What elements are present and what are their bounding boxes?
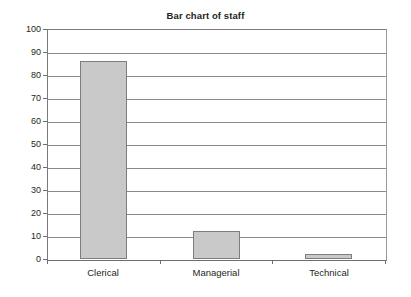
y-axis-label: 60 <box>31 117 41 126</box>
gridline <box>48 122 386 123</box>
y-axis-label: 100 <box>26 25 41 34</box>
gridline <box>48 76 386 77</box>
y-axis-label: 20 <box>31 209 41 218</box>
y-axis-label: 50 <box>31 140 41 149</box>
gridline <box>48 191 386 192</box>
plot-area <box>47 29 387 261</box>
x-axis-tick <box>272 260 273 264</box>
gridline <box>48 53 386 54</box>
gridlines <box>48 30 386 260</box>
gridline <box>48 214 386 215</box>
x-axis-tick <box>47 260 48 264</box>
y-axis-label: 40 <box>31 163 41 172</box>
y-axis-label: 70 <box>31 94 41 103</box>
gridline <box>48 237 386 238</box>
y-axis-label: 30 <box>31 186 41 195</box>
y-axis-label: 90 <box>31 48 41 57</box>
x-axis-tick <box>160 260 161 264</box>
bar-chart: Bar chart of staff 010203040506070809010… <box>0 0 411 297</box>
x-axis-label-technical: Technical <box>309 267 349 278</box>
x-axis-label-managerial: Managerial <box>193 267 240 278</box>
x-axis-label-clerical: Clerical <box>87 267 119 278</box>
y-axis-label: 0 <box>36 255 41 264</box>
gridline <box>48 168 386 169</box>
y-axis-label: 10 <box>31 232 41 241</box>
y-axis-label: 80 <box>31 71 41 80</box>
gridline <box>48 145 386 146</box>
gridline <box>48 99 386 100</box>
chart-title: Bar chart of staff <box>0 10 411 21</box>
x-axis: ClericalManagerialTechnical <box>47 260 386 290</box>
y-axis: 0102030405060708090100 <box>0 29 47 260</box>
x-axis-tick <box>385 260 386 264</box>
